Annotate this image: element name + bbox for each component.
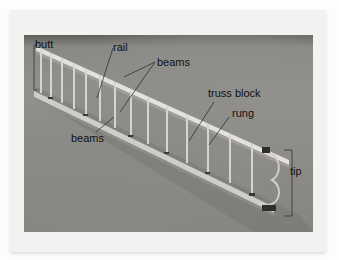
label-truss-block: truss block — [208, 88, 261, 99]
label-rung: rung — [232, 108, 254, 119]
label-rail: rail — [113, 42, 128, 53]
label-butt: butt — [35, 39, 53, 50]
label-beams-top: beams — [157, 57, 190, 68]
label-tip: tip — [290, 166, 302, 177]
label-beams-bottom: beams — [71, 133, 104, 144]
